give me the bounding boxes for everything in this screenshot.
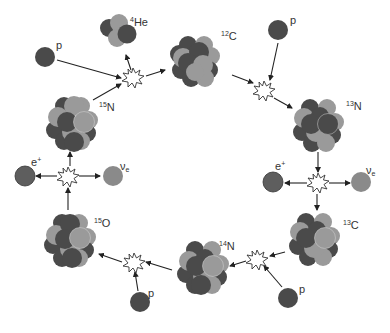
burst-icon (122, 68, 144, 88)
label-n13: 13N (346, 100, 362, 112)
nucleus-o15 (44, 214, 96, 268)
burst-icon (123, 253, 145, 273)
nucleus-c12 (170, 36, 220, 87)
label-n15: 15N (99, 101, 115, 113)
label-positron: e+ (31, 156, 41, 168)
nucleus-n13 (293, 99, 344, 152)
label-c13: 13C (343, 219, 359, 231)
positron-icon (263, 172, 283, 192)
label-neutrino: νe (366, 165, 375, 177)
proton-icon (268, 20, 288, 40)
proton-icon (278, 288, 298, 308)
burst-icon (57, 167, 79, 187)
burst-icon (307, 173, 329, 193)
label-neutrino: νe (120, 161, 129, 173)
label-c12: 12C (221, 30, 237, 42)
label-positron: e+ (275, 160, 285, 172)
proton-icon (35, 47, 55, 67)
label-o15: 15O (94, 217, 110, 229)
label-n14: 14N (219, 240, 235, 252)
label-proton: p (290, 15, 296, 26)
nucleus-n15 (46, 96, 98, 152)
label-he4: 4He (130, 16, 148, 28)
label-proton: p (148, 288, 154, 299)
proton-icon (130, 292, 150, 312)
positron-icon (15, 166, 35, 186)
label-proton: p (56, 40, 62, 51)
label-proton: p (299, 284, 305, 295)
nucleus-c13 (289, 213, 340, 266)
burst-icon (253, 81, 275, 101)
